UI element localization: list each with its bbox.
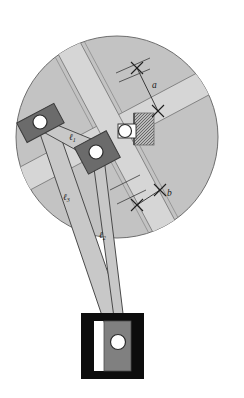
fixture-crossbar-bottom	[81, 371, 144, 379]
dimension-b-label: b	[167, 188, 172, 198]
dimension-a-label: a	[152, 80, 157, 90]
linkage-diagram: a b	[0, 0, 244, 398]
bottom-fixture[interactable]	[81, 313, 144, 379]
center-pivot[interactable]	[118, 124, 136, 138]
fixture-rail-right	[131, 313, 144, 379]
figure-root: a b	[0, 0, 244, 398]
hatch-rect	[134, 113, 154, 145]
ground-hatch-block	[134, 113, 154, 145]
middle-joint-pin[interactable]	[89, 145, 103, 159]
bottom-pin[interactable]	[111, 335, 126, 350]
fixture-rail-left	[81, 313, 94, 379]
fixture-crossbar-top	[81, 313, 144, 321]
left-joint-pin[interactable]	[33, 115, 47, 129]
center-pivot-pin	[119, 125, 132, 138]
